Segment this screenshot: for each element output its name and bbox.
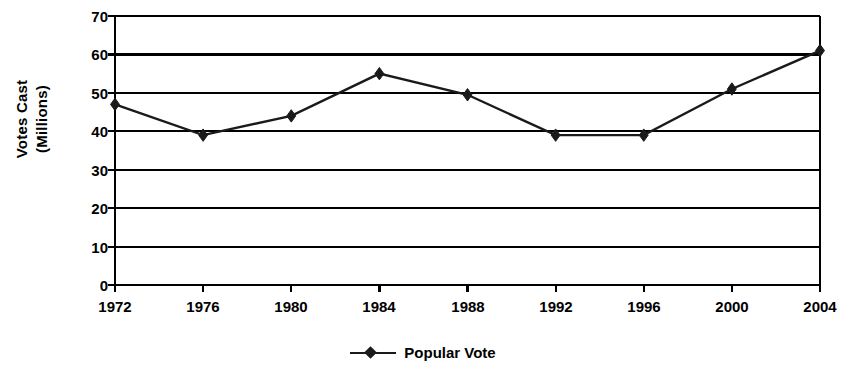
data-point-1984 bbox=[375, 67, 384, 79]
x-tick-label-1972: 1972 bbox=[75, 298, 155, 316]
x-tick-label-1996: 1996 bbox=[604, 298, 684, 316]
x-tick-label-1988: 1988 bbox=[428, 298, 508, 316]
data-point-1972 bbox=[111, 98, 120, 110]
x-tick-label-2004: 2004 bbox=[780, 298, 846, 316]
legend-label: Popular Vote bbox=[396, 345, 495, 361]
x-tick-label-1984: 1984 bbox=[339, 298, 419, 316]
x-tick-label-2000: 2000 bbox=[692, 298, 772, 316]
legend-entry-popular-vote: Popular Vote bbox=[350, 345, 495, 361]
gridlines bbox=[115, 16, 820, 285]
x-tick-label-1976: 1976 bbox=[163, 298, 243, 316]
line-chart: Votes Cast (Millions) 70 60 50 40 30 20 … bbox=[0, 0, 846, 379]
plot-area bbox=[0, 0, 846, 379]
data-point-1988 bbox=[463, 89, 472, 101]
legend-line-diamond-icon bbox=[350, 345, 396, 361]
x-tick-label-1980: 1980 bbox=[251, 298, 331, 316]
chart-legend: Popular Vote bbox=[0, 345, 846, 361]
x-tick-label-1992: 1992 bbox=[516, 298, 596, 316]
data-point-1980 bbox=[287, 110, 296, 122]
